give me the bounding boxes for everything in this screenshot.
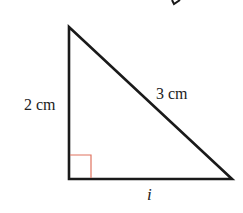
left-side-label: 2 cm — [24, 96, 56, 113]
base-label: i — [147, 185, 152, 204]
top-fragment — [172, 0, 180, 4]
right-angle-marker — [70, 155, 91, 178]
right-triangle — [69, 27, 232, 179]
hypotenuse-label: 3 cm — [156, 85, 188, 102]
triangle-diagram: 2 cm 3 cm i — [0, 0, 243, 213]
